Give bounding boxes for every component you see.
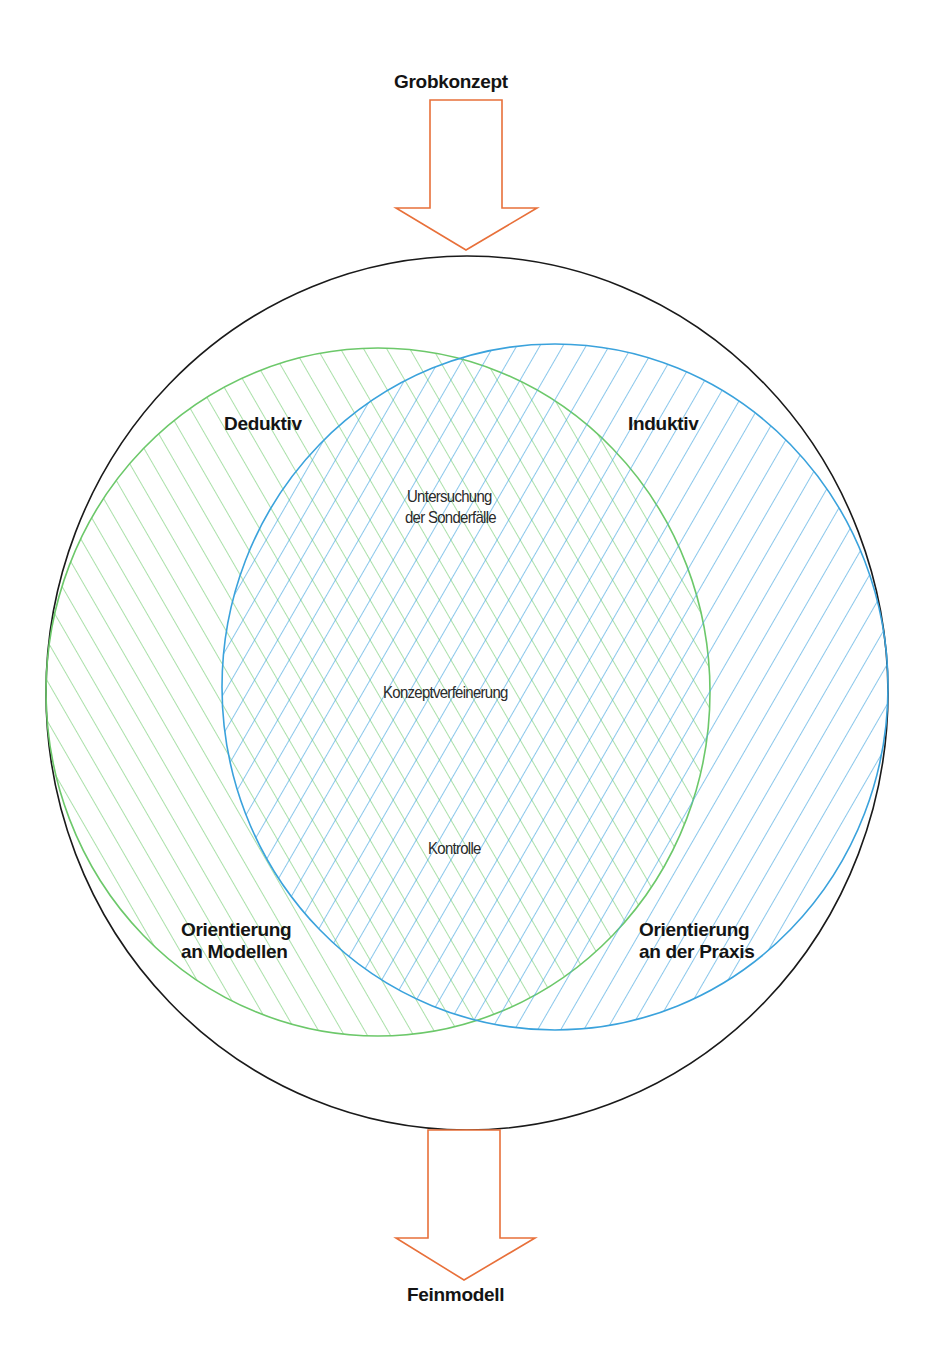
- input-arrow: [396, 100, 537, 250]
- overlap-item-control: Kontrolle: [428, 840, 481, 859]
- output-arrow: [396, 1130, 535, 1280]
- inductive-sublabel-line1: Orientierung: [639, 920, 749, 941]
- inductive-sublabel-line2: an der Praxis: [639, 942, 754, 963]
- input-label: Grobkonzept: [394, 72, 508, 93]
- inductive-set: [222, 344, 888, 1030]
- overlap-item-refinement: Konzeptverfeinerung: [383, 684, 508, 703]
- overlap-item-special-cases-line1: Untersuchung: [407, 488, 492, 507]
- deductive-label: Deduktiv: [224, 414, 302, 435]
- deductive-sublabel-line2: an Modellen: [181, 942, 288, 963]
- output-label: Feinmodell: [407, 1285, 504, 1306]
- overlap-item-special-cases-line2: der Sonderfälle: [405, 509, 496, 528]
- deductive-sublabel-line1: Orientierung: [181, 920, 291, 941]
- inductive-label: Induktiv: [628, 414, 698, 435]
- venn-diagram: Grobkonzept Deduktiv Induktiv Untersuchu…: [0, 0, 931, 1370]
